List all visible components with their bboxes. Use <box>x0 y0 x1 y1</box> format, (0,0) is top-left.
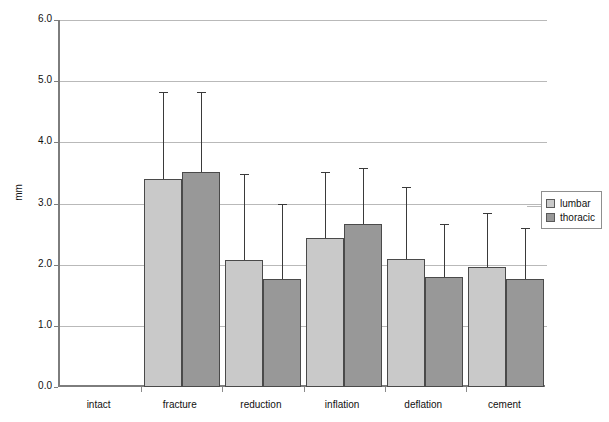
error-bar-whisker-deflation-lumbar <box>406 187 407 259</box>
x-axis-label-fracture: fracture <box>135 399 225 410</box>
gridline <box>60 20 547 21</box>
error-bar-whisker-inflation-thoracic <box>363 168 364 224</box>
error-bar-cap-cement-thoracic <box>521 228 530 229</box>
error-bar-cap-inflation-thoracic <box>359 168 368 169</box>
gridline <box>60 265 547 266</box>
y-axis-tick-label: 4.0 <box>12 135 52 146</box>
x-axis-label-deflation: deflation <box>378 399 468 410</box>
plot-area <box>58 20 545 387</box>
bar-deflation-lumbar <box>387 259 425 387</box>
x-axis-label-cement: cement <box>459 399 549 410</box>
error-bar-cap-fracture-thoracic <box>197 92 206 93</box>
error-bar-whisker-fracture-lumbar <box>163 92 164 179</box>
y-axis-tick-label: 2.0 <box>12 258 52 269</box>
bar-fracture-thoracic <box>182 172 220 387</box>
error-bar-cap-reduction-thoracic <box>278 204 287 205</box>
bar-reduction-thoracic <box>263 279 301 387</box>
legend-swatch-lumbar <box>546 199 555 208</box>
error-bar-cap-reduction-lumbar <box>240 174 249 175</box>
chart-legend: lumbar thoracic <box>541 191 602 229</box>
error-bar-cap-cement-lumbar <box>483 213 492 214</box>
x-axis-label-reduction: reduction <box>216 399 306 410</box>
y-axis-tick-label: 0.0 <box>12 380 52 391</box>
legend-label-thoracic: thoracic <box>560 212 595 223</box>
bar-deflation-thoracic <box>425 277 463 387</box>
x-axis-tick-mark <box>141 387 142 392</box>
error-bar-whisker-cement-lumbar <box>487 213 488 267</box>
bar-fracture-lumbar <box>144 179 182 387</box>
x-axis-tick-mark <box>466 387 467 392</box>
bar-reduction-lumbar <box>225 260 263 387</box>
error-bar-whisker-deflation-thoracic <box>444 224 445 277</box>
legend-swatch-thoracic <box>546 213 555 222</box>
error-bar-whisker-fracture-thoracic <box>201 92 202 172</box>
error-bar-whisker-inflation-lumbar <box>325 172 326 238</box>
legend-leader-line <box>527 206 542 207</box>
gridline <box>60 142 547 143</box>
y-axis-label: mm <box>13 163 24 223</box>
chart-container: mm 0.01.02.03.04.05.06.0 intactfracturer… <box>0 0 609 422</box>
x-axis-tick-mark <box>222 387 223 392</box>
bar-inflation-lumbar <box>306 238 344 387</box>
x-axis-tick-mark <box>385 387 386 392</box>
gridline <box>60 204 547 205</box>
error-bar-whisker-cement-thoracic <box>525 228 526 279</box>
bar-cement-lumbar <box>468 267 506 387</box>
y-axis-tick-label: 1.0 <box>12 319 52 330</box>
x-axis-tick-mark <box>304 387 305 392</box>
bar-inflation-thoracic <box>344 224 382 387</box>
x-axis-label-inflation: inflation <box>297 399 387 410</box>
y-axis-tick-label: 5.0 <box>12 74 52 85</box>
legend-item-lumbar: lumbar <box>546 196 595 210</box>
bar-cement-thoracic <box>506 279 544 387</box>
legend-item-thoracic: thoracic <box>546 210 595 224</box>
error-bar-cap-inflation-lumbar <box>321 172 330 173</box>
x-axis-label-intact: intact <box>54 399 144 410</box>
gridline <box>60 81 547 82</box>
y-axis-tick-label: 3.0 <box>12 197 52 208</box>
error-bar-cap-fracture-lumbar <box>159 92 168 93</box>
legend-label-lumbar: lumbar <box>560 198 591 209</box>
error-bar-whisker-reduction-thoracic <box>282 204 283 279</box>
error-bar-cap-deflation-lumbar <box>402 187 411 188</box>
error-bar-cap-deflation-thoracic <box>440 224 449 225</box>
error-bar-whisker-reduction-lumbar <box>244 174 245 260</box>
y-axis-tick-label: 6.0 <box>12 13 52 24</box>
y-axis-tick-mark <box>54 387 58 388</box>
